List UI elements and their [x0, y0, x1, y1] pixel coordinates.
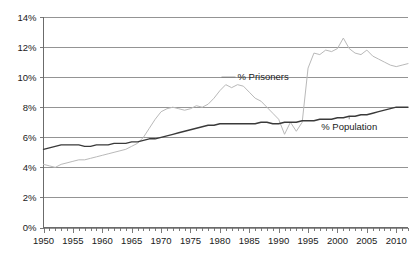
x-tick-label-1980: 1980 [209, 235, 230, 246]
y-tick-label-12: 12% [17, 42, 37, 53]
y-tick-labels-group: 0%2%4%6%8%10%12%14% [17, 12, 37, 234]
x-tick-label-1995: 1995 [297, 235, 318, 246]
line-chart: 0%2%4%6%8%10%12%14% 19501955196019651970… [0, 0, 417, 259]
y-tick-label-4: 4% [23, 162, 37, 173]
x-tick-label-1985: 1985 [239, 235, 260, 246]
y-tick-marks-group [40, 18, 44, 229]
y-tick-label-8: 8% [23, 102, 37, 113]
series-group [44, 38, 409, 167]
x-tick-label-2010: 2010 [386, 235, 407, 246]
y-tick-label-0: 0% [23, 222, 37, 233]
y-tick-label-2: 2% [23, 192, 37, 203]
series-line-prisoners [44, 38, 409, 167]
x-tick-labels-group: 1950195519601965197019751980198519901995… [33, 235, 407, 246]
y-tick-label-6: 6% [23, 132, 37, 143]
x-tick-label-1975: 1975 [180, 235, 201, 246]
x-tick-label-1955: 1955 [62, 235, 83, 246]
y-tick-label-14: 14% [17, 12, 37, 23]
population-annotation-label: % Population [321, 121, 377, 132]
x-tick-label-2000: 2000 [327, 235, 348, 246]
chart-canvas: 0%2%4%6%8%10%12%14% 19501955196019651970… [0, 0, 417, 259]
y-tick-label-10: 10% [17, 72, 37, 83]
x-tick-label-2005: 2005 [356, 235, 377, 246]
x-tick-label-1960: 1960 [92, 235, 113, 246]
x-tick-label-1950: 1950 [33, 235, 54, 246]
x-tick-label-1965: 1965 [121, 235, 142, 246]
x-tick-label-1990: 1990 [268, 235, 289, 246]
prisoners-annotation-label: % Prisoners [238, 71, 289, 82]
x-tick-label-1970: 1970 [151, 235, 172, 246]
